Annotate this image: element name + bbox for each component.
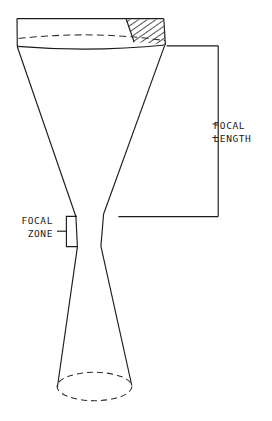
diagram-canvas: FOCAL LENGTH FOCAL ZONE xyxy=(0,0,272,421)
transducer-housing xyxy=(17,14,172,50)
focal-length-dimension: FOCAL LENGTH xyxy=(118,46,251,217)
waist-right-edge xyxy=(101,214,104,246)
focal-length-label-line2: LENGTH xyxy=(214,133,252,144)
focal-zone-dimension: FOCAL ZONE xyxy=(21,215,77,247)
waist-left-edge xyxy=(76,217,78,247)
aperture-ellipse-outline xyxy=(57,372,132,400)
beam-left-diverging-edge xyxy=(57,247,77,387)
focal-length-label-line1: FOCAL xyxy=(214,120,246,131)
beam-bottom-aperture-ellipse xyxy=(57,372,132,400)
focal-zone-label-line1: FOCAL xyxy=(21,215,53,226)
focal-zone-diagram: FOCAL LENGTH FOCAL ZONE xyxy=(0,0,272,421)
beam-right-diverging-edge xyxy=(101,246,132,385)
transducer-face-front-rim xyxy=(17,45,165,49)
converging-beam xyxy=(17,46,164,217)
beam-right-converging-edge xyxy=(104,46,165,214)
diverging-beam xyxy=(57,246,131,387)
focal-zone-label-line2: ZONE xyxy=(28,228,53,239)
beam-left-converging-edge xyxy=(17,47,76,217)
focal-zone-waist xyxy=(76,214,104,247)
